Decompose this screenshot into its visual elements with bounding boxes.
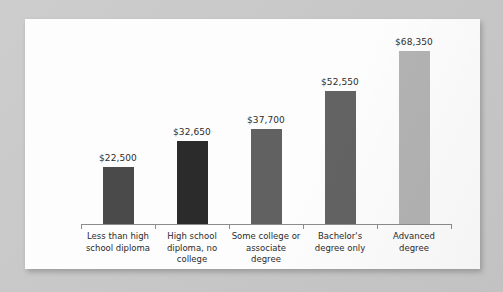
category-label-3: Bachelor'sdegree only bbox=[303, 231, 377, 266]
category-label-0: Less than highschool diploma bbox=[81, 231, 155, 266]
bar-3 bbox=[325, 91, 356, 224]
category-label-2: Some college orassociatedegree bbox=[229, 231, 303, 266]
bar-2 bbox=[251, 129, 282, 224]
bar-group-0: $22,500 bbox=[81, 29, 155, 224]
axis-tick-5 bbox=[451, 224, 452, 229]
chart-card: $22,500 $32,650 $37,700 $52,550 $68,350 bbox=[25, 19, 480, 269]
bar-value-label-1: $32,650 bbox=[173, 127, 211, 137]
axis-tick-4 bbox=[377, 224, 378, 229]
x-axis-category-labels: Less than highschool diploma High school… bbox=[81, 231, 451, 266]
bar-group-4: $68,350 bbox=[377, 29, 451, 224]
axis-tick-2 bbox=[229, 224, 230, 229]
bar-group-2: $37,700 bbox=[229, 29, 303, 224]
category-label-1: High schooldiploma, nocollege bbox=[155, 231, 229, 266]
x-axis-line bbox=[81, 224, 451, 225]
axis-tick-1 bbox=[155, 224, 156, 229]
plot-area: $22,500 $32,650 $37,700 $52,550 $68,350 bbox=[81, 29, 451, 224]
bar-series: $22,500 $32,650 $37,700 $52,550 $68,350 bbox=[81, 29, 451, 224]
bar-value-label-3: $52,550 bbox=[321, 77, 359, 87]
bar-value-label-0: $22,500 bbox=[99, 153, 137, 163]
bar-1 bbox=[177, 141, 208, 224]
bar-0 bbox=[103, 167, 134, 224]
screenshot-canvas: $22,500 $32,650 $37,700 $52,550 $68,350 bbox=[0, 0, 503, 292]
bar-value-label-2: $37,700 bbox=[247, 115, 285, 125]
category-label-4: Advanceddegree bbox=[377, 231, 451, 266]
bar-4 bbox=[399, 51, 430, 224]
axis-tick-0 bbox=[81, 224, 82, 229]
axis-tick-3 bbox=[303, 224, 304, 229]
bar-group-1: $32,650 bbox=[155, 29, 229, 224]
bar-value-label-4: $68,350 bbox=[395, 37, 433, 47]
bar-group-3: $52,550 bbox=[303, 29, 377, 224]
